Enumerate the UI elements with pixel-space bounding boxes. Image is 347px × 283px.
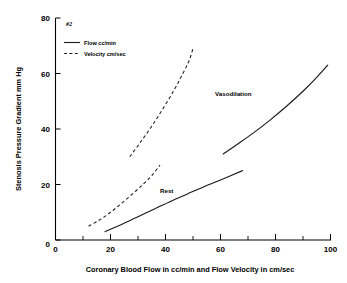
- x-tick-label: 100: [324, 245, 338, 254]
- y-tick-label: 60: [41, 70, 50, 79]
- y-tick-label: 80: [41, 14, 50, 23]
- x-tick-label: 20: [106, 245, 115, 254]
- x-axis-title: Coronary Blood Flow in cc/min and Flow V…: [86, 265, 295, 274]
- x-tick-label: 0: [53, 245, 58, 254]
- y-tick-label: 40: [41, 125, 50, 134]
- x-tick-label: 40: [161, 245, 170, 254]
- legend-label-flow: Flow cc/min: [84, 40, 117, 46]
- chart-svg: 80 60 40 20 0 0 20 40 60: [0, 0, 347, 283]
- x-axis-tick-labels: 0 20 40 60 80 100: [53, 245, 337, 254]
- x-axis-minor-ticks: [83, 236, 303, 240]
- x-tick-label: 60: [216, 245, 225, 254]
- legend-label-velocity: Velocity cm/sec: [84, 51, 126, 57]
- panel-id-label: #2: [65, 21, 72, 27]
- data-curves: [89, 49, 328, 232]
- annotation-rest: Rest: [160, 187, 173, 194]
- y-tick-label: 0: [46, 240, 51, 249]
- annotation-vasodilation: Vasodilation: [215, 90, 252, 97]
- chart-container: 80 60 40 20 0 0 20 40 60: [0, 0, 347, 283]
- curve-vasodilation-velocity: [130, 49, 193, 157]
- curve-rest-flow-final: [105, 171, 243, 232]
- y-axis-ticks: [56, 18, 61, 240]
- chart-legend: Flow cc/min Velocity cm/sec: [64, 40, 126, 57]
- y-tick-label: 20: [41, 181, 50, 190]
- curve-rest-velocity: [89, 165, 161, 226]
- y-axis-title: Stenosis Pressure Gradient mm Hg: [14, 66, 23, 191]
- y-axis-tick-labels: 80 60 40 20 0: [41, 14, 50, 249]
- curve-vasodilation-flow: [223, 65, 328, 154]
- x-tick-label: 80: [271, 245, 280, 254]
